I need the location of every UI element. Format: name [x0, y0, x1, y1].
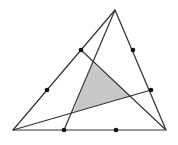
cevian-lines — [13, 10, 166, 130]
point-bc-1 — [62, 128, 67, 133]
triangle-diagram — [0, 0, 178, 145]
point-ab-2 — [45, 88, 50, 93]
point-ab-1 — [79, 48, 84, 53]
cevian-line-1 — [64, 10, 115, 130]
point-bc-2 — [114, 128, 119, 133]
point-ac-1 — [131, 48, 136, 53]
point-ac-2 — [149, 88, 154, 93]
